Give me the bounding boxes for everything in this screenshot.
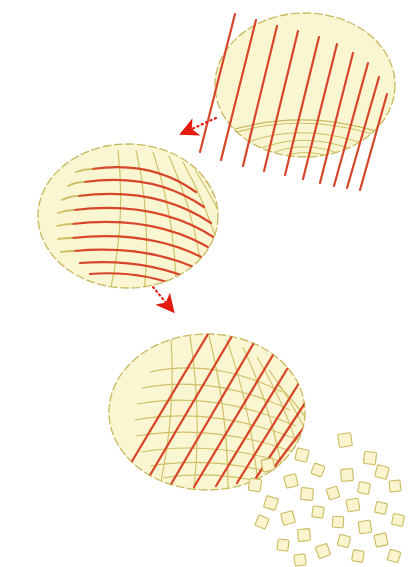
square-tile bbox=[332, 516, 344, 528]
square-tile bbox=[312, 506, 324, 518]
square-tile bbox=[375, 465, 390, 480]
square-tile bbox=[297, 528, 310, 541]
square-tile bbox=[281, 511, 296, 526]
square-tile bbox=[358, 482, 371, 495]
surface-outline-top bbox=[215, 13, 395, 157]
figure-canvas bbox=[0, 0, 411, 567]
square-tile bbox=[284, 474, 299, 489]
square-tile bbox=[264, 496, 279, 511]
square-tile bbox=[358, 520, 372, 534]
square-tile bbox=[389, 480, 401, 492]
square-tile bbox=[300, 487, 313, 500]
square-tile bbox=[248, 478, 262, 492]
square-tile bbox=[294, 554, 306, 566]
square-tile bbox=[391, 513, 404, 526]
square-tile bbox=[341, 469, 354, 482]
square-tile bbox=[352, 550, 365, 563]
square-tile bbox=[261, 458, 275, 472]
square-tile bbox=[337, 534, 350, 547]
square-tile bbox=[374, 501, 387, 514]
square-tile bbox=[346, 498, 360, 512]
square-tile bbox=[295, 448, 310, 463]
square-tile bbox=[363, 451, 376, 464]
square-tile bbox=[338, 433, 353, 448]
square-tile bbox=[374, 533, 388, 547]
square-tile bbox=[277, 539, 289, 551]
